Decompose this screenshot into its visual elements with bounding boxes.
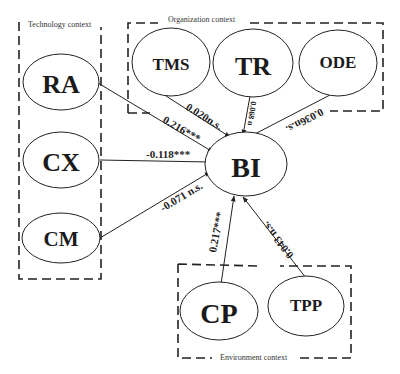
edge-label-cp-bi: 0.217***	[206, 210, 226, 253]
node-tpp: TPP	[268, 276, 344, 336]
node-tpp-label: TPP	[290, 296, 322, 315]
node-ra-label: RA	[42, 70, 80, 99]
node-tr: TR	[213, 29, 293, 97]
node-cm: CM	[22, 213, 100, 263]
organization-context-label: Organization context	[168, 15, 236, 24]
node-ode-label: ODE	[320, 53, 357, 72]
node-ode: ODE	[299, 30, 377, 96]
edge-label-cx-bi: -0.118***	[146, 148, 191, 160]
edge-label-tr-bi: 0.068 n	[246, 101, 258, 127]
node-bi-label: BI	[231, 152, 261, 183]
node-cm-label: CM	[44, 227, 79, 251]
edge-cx-bi	[100, 160, 210, 162]
node-cp: CP	[180, 282, 258, 340]
technology-context-label: Technology context	[28, 20, 92, 29]
node-cx-label: CX	[42, 148, 80, 177]
node-ra: RA	[23, 54, 99, 110]
edge-label-ode-bi: 0.036n.s.	[284, 106, 326, 136]
node-cp-label: CP	[200, 298, 237, 329]
node-bi: BI	[205, 132, 287, 196]
node-cx: CX	[23, 132, 99, 188]
edge-cp-bi	[221, 196, 234, 284]
edge-label-cm-bi: -0.071 n.s.	[158, 179, 205, 214]
environment-context-label: Environment context	[220, 353, 288, 362]
research-model-diagram: Technology context Organization context …	[0, 0, 400, 374]
edge-label-tpp-bi: 0.043 n.s.	[259, 219, 295, 261]
node-tr-label: TR	[235, 52, 271, 81]
node-tms-label: TMS	[153, 55, 190, 74]
node-tms: TMS	[132, 28, 210, 96]
